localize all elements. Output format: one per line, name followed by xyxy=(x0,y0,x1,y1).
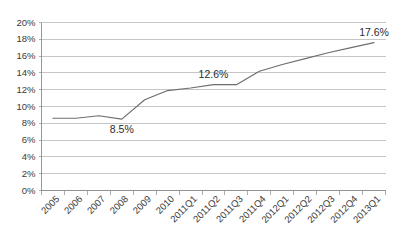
line-chart: 0%2%4%6%8%10%12%14%16%18%20% 20052006200… xyxy=(0,0,406,251)
x-axis-tick-label: 2006 xyxy=(62,193,85,216)
data-point-annotation: 17.6% xyxy=(359,26,389,38)
y-axis-tick-label: 6% xyxy=(22,134,36,145)
x-axis-tick-label: 2009 xyxy=(130,193,153,216)
y-axis-tick-label: 16% xyxy=(16,50,36,61)
y-axis-tick-label: 10% xyxy=(16,101,36,112)
y-axis-tick-label: 14% xyxy=(16,67,36,78)
chart-canvas: 0%2%4%6%8%10%12%14%16%18%20% 20052006200… xyxy=(0,0,406,251)
data-point-annotation: 12.6% xyxy=(199,68,229,80)
x-axis-tick-label: 2008 xyxy=(107,193,130,216)
y-axis-tick-label: 0% xyxy=(22,185,36,196)
data-series-line xyxy=(53,43,374,119)
y-axis-tick-label: 2% xyxy=(22,168,36,179)
data-annotations-group: 8.5%12.6%17.6% xyxy=(110,26,389,135)
x-axis-tick-label: 2005 xyxy=(39,193,62,216)
x-axis-tick-label: 2007 xyxy=(85,193,108,216)
y-axis-tick-label: 8% xyxy=(22,117,36,128)
data-point-annotation: 8.5% xyxy=(110,123,134,135)
x-axis-tick-labels: 2005200620072008200920102011Q12011Q22011… xyxy=(39,193,383,225)
gridlines-group xyxy=(39,23,386,191)
y-axis-tick-label: 12% xyxy=(16,84,36,95)
y-axis-tick-label: 20% xyxy=(16,17,36,28)
y-axis-tick-label: 18% xyxy=(16,33,36,44)
y-axis-tick-label: 4% xyxy=(22,151,36,162)
y-axis-tick-labels: 0%2%4%6%8%10%12%14%16%18%20% xyxy=(16,17,36,196)
